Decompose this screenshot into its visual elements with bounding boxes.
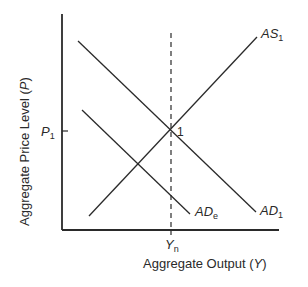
as1-label: AS1 [260, 26, 283, 43]
equilibrium-point-label: 1 [177, 125, 184, 139]
p1-label: P1 [41, 124, 55, 141]
ade-label: ADe [194, 204, 218, 221]
as-ad-diagram: AS1 AD1 ADe 1 P1 Yn Aggregate Output (Y)… [0, 0, 308, 287]
ad1-label: AD1 [259, 203, 283, 220]
y-axis-title: Aggregate Price Level (P) [17, 77, 32, 226]
x-axis-title: Aggregate Output (Y) [143, 256, 267, 271]
yn-label: Yn [165, 237, 179, 254]
